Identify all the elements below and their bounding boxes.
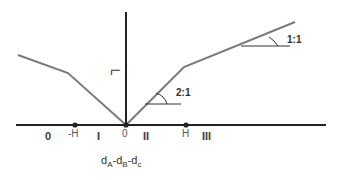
region-label-0: 0: [45, 131, 51, 142]
x-axis-label: dA-dB-dc: [101, 155, 141, 169]
region-label-i: I: [97, 131, 100, 142]
tick-label-neg-h: -H: [68, 129, 79, 139]
region-label-ii: II: [143, 131, 149, 142]
region-label-iii: III: [202, 131, 211, 142]
x-axis-label-d2: -d: [112, 154, 122, 166]
tick-label-h: H: [182, 129, 189, 139]
vertical-axis-label: L: [109, 69, 121, 76]
tick-dot-h: [183, 122, 188, 127]
x-axis-label-d3: -d: [128, 154, 138, 166]
slope-label-2-1: 2:1: [176, 88, 190, 98]
slope-1-1-arc: [269, 37, 278, 46]
diagram-canvas: [0, 0, 343, 180]
tick-dot-neg-h: [72, 122, 77, 127]
x-axis-label-sub-c: c: [137, 160, 141, 169]
tick-label-origin: 0: [122, 129, 128, 139]
tick-dot-origin: [123, 122, 128, 127]
left-curve: [18, 55, 126, 125]
slope-label-1-1: 1:1: [287, 35, 301, 45]
